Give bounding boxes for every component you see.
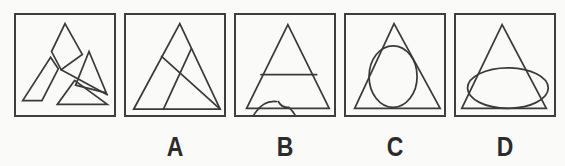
option-box-a — [124, 13, 226, 117]
question-figure — [16, 15, 114, 115]
option-box-b — [234, 13, 336, 117]
option-figure-d — [456, 15, 554, 115]
option-label-a: A — [133, 131, 217, 163]
option-box-c — [344, 13, 446, 117]
option-figure-a — [126, 15, 224, 115]
puzzle-strip: A B C D — [0, 0, 565, 166]
option-box-d — [454, 13, 556, 117]
option-label-b: B — [243, 131, 327, 163]
question-figure-box — [14, 13, 116, 117]
option-label-c: C — [353, 131, 437, 163]
option-figure-c — [346, 15, 444, 115]
option-figure-b — [236, 15, 334, 115]
option-label-d: D — [463, 131, 547, 163]
